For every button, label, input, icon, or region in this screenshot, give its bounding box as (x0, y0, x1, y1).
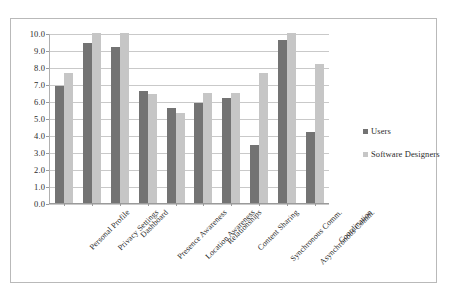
bar (167, 108, 176, 203)
y-axis-tick-label: 5.0 (34, 114, 45, 124)
plot-area: 10.09.08.07.06.05.04.03.02.01.00.0 (49, 34, 329, 204)
bar (287, 33, 296, 203)
bar-group (301, 34, 329, 203)
y-axis-tick-label: 3.0 (34, 148, 45, 158)
legend-swatch-icon (363, 129, 368, 134)
bar (120, 33, 129, 203)
bar-group (50, 34, 78, 203)
bar (250, 145, 259, 203)
bar (176, 113, 185, 203)
legend-item-label: Software Designers (371, 149, 440, 159)
bar (92, 33, 101, 203)
y-axis-tick-label: 8.0 (34, 63, 45, 73)
bar (111, 47, 120, 203)
legend-swatch-icon (363, 152, 368, 157)
chart-figure: 10.09.08.07.06.05.04.03.02.01.00.0 Perso… (10, 18, 437, 283)
bar-group (217, 34, 245, 203)
y-axis-tick-label: 4.0 (34, 131, 45, 141)
bar (231, 93, 240, 203)
bar-group (134, 34, 162, 203)
legend-item: Software Designers (363, 149, 437, 159)
bar-group (190, 34, 218, 203)
bar (139, 91, 148, 203)
chart-legend: UsersSoftware Designers (363, 126, 437, 172)
bar (222, 98, 231, 203)
bar-group (273, 34, 301, 203)
bar-group (78, 34, 106, 203)
bar (278, 40, 287, 203)
bar-group (245, 34, 273, 203)
bar (83, 43, 92, 203)
y-axis-tick-label: 6.0 (34, 97, 45, 107)
y-axis-tick-label: 9.0 (34, 46, 45, 56)
bar (55, 86, 64, 203)
bar-group (106, 34, 134, 203)
legend-item-label: Users (371, 126, 391, 136)
bar (315, 64, 324, 203)
bar (194, 103, 203, 203)
y-axis-tick-label: 0.0 (34, 199, 45, 209)
y-axis-tick-label: 2.0 (34, 165, 45, 175)
bar (203, 93, 212, 203)
bar (306, 132, 315, 203)
y-axis-tick-label: 1.0 (34, 182, 45, 192)
bar (259, 73, 268, 203)
bar-groups (50, 34, 329, 203)
bar (148, 94, 157, 203)
y-axis-tick-label: 7.0 (34, 80, 45, 90)
legend-item: Users (363, 126, 437, 136)
y-axis-tick-label: 10.0 (30, 29, 45, 39)
bar (64, 73, 73, 203)
bar-group (162, 34, 190, 203)
x-axis-category-labels: Personal ProfilePrivacy SettingsDashboar… (49, 205, 329, 283)
x-axis-category-label: Presence Awareness (175, 208, 228, 261)
